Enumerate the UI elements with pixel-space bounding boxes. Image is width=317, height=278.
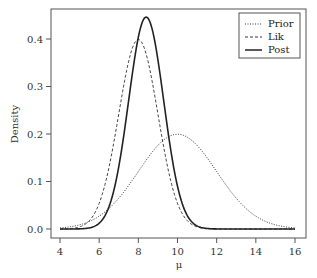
legend-post-label: Post bbox=[268, 44, 290, 55]
x-tick-label: 14 bbox=[249, 246, 262, 257]
x-axis: 46810121416 bbox=[57, 238, 302, 257]
x-tick-label: 6 bbox=[96, 246, 102, 257]
legend: Prior Lik Post bbox=[239, 13, 300, 58]
curve-lik bbox=[60, 40, 295, 230]
y-tick-label: 0.1 bbox=[27, 176, 43, 187]
x-tick-label: 8 bbox=[135, 246, 141, 257]
x-axis-title: μ bbox=[176, 259, 183, 270]
x-tick-label: 4 bbox=[57, 246, 63, 257]
x-tick-label: 16 bbox=[289, 246, 302, 257]
legend-lik-label: Lik bbox=[268, 31, 285, 42]
legend-prior-label: Prior bbox=[268, 18, 294, 29]
x-tick-label: 10 bbox=[171, 246, 184, 257]
y-tick-label: 0.2 bbox=[27, 129, 43, 140]
y-tick-label: 0.0 bbox=[27, 224, 43, 235]
curve-prior bbox=[60, 134, 295, 228]
density-chart: 46810121416 0.00.10.20.30.4 μ Density Pr… bbox=[0, 0, 317, 278]
y-tick-label: 0.4 bbox=[27, 34, 43, 45]
y-tick-label: 0.3 bbox=[27, 81, 43, 92]
y-axis: 0.00.10.20.30.4 bbox=[27, 34, 51, 235]
y-axis-title: Density bbox=[9, 104, 20, 143]
x-tick-label: 12 bbox=[210, 246, 223, 257]
